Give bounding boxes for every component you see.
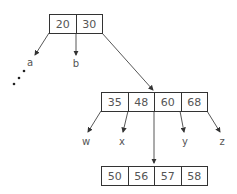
- child-label-w: w: [82, 136, 90, 147]
- internal-key: 48: [129, 93, 156, 111]
- root-node: 20 30: [49, 14, 103, 34]
- root-key: 20: [50, 15, 77, 33]
- internal-key: 60: [155, 93, 182, 111]
- leaf-key: 58: [182, 167, 208, 185]
- internal-key: 35: [102, 93, 129, 111]
- leaf-node: 50 56 57 58: [101, 166, 208, 186]
- child-label-a: a: [27, 57, 33, 68]
- internal-node: 35 48 60 68: [101, 92, 208, 112]
- edge-to-x: [123, 111, 128, 132]
- child-label-z: z: [219, 136, 224, 147]
- edge-to-a: [35, 33, 49, 55]
- internal-key: 68: [182, 93, 208, 111]
- ellipsis-dots: [13, 70, 26, 86]
- edge-to-internal: [102, 33, 153, 90]
- leaf-key: 50: [102, 167, 129, 185]
- child-label-b: b: [73, 58, 79, 69]
- leaf-key: 57: [155, 167, 182, 185]
- child-label-y: y: [182, 136, 188, 147]
- child-label-x: x: [119, 136, 125, 147]
- edge-to-w: [88, 111, 101, 132]
- edge-to-y: [180, 111, 184, 132]
- edge-to-z: [207, 111, 220, 132]
- leaf-key: 56: [129, 167, 156, 185]
- root-key: 30: [77, 15, 103, 33]
